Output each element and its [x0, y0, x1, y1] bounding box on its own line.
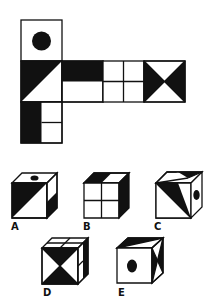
- option-e-label: E: [118, 288, 125, 298]
- option-b-label: B: [83, 222, 91, 232]
- option-d-cube[interactable]: [42, 238, 88, 284]
- net-face-four-squares: [103, 61, 144, 102]
- option-c-label: C: [154, 222, 161, 232]
- puzzle-figure: [0, 0, 217, 306]
- option-b-cube[interactable]: [84, 173, 129, 218]
- net-face-stripe: [21, 102, 62, 143]
- cube-net: [21, 20, 185, 143]
- net-face-bowtie: [144, 61, 185, 102]
- option-c-cube[interactable]: [156, 172, 202, 218]
- option-a-label: A: [11, 222, 19, 232]
- net-face-half-black: [62, 61, 103, 102]
- option-e-cube[interactable]: [117, 238, 163, 283]
- net-face-circle: [21, 20, 62, 61]
- option-d-label: D: [43, 288, 51, 298]
- option-a-cube[interactable]: [12, 173, 57, 218]
- net-face-diagonal: [21, 61, 62, 102]
